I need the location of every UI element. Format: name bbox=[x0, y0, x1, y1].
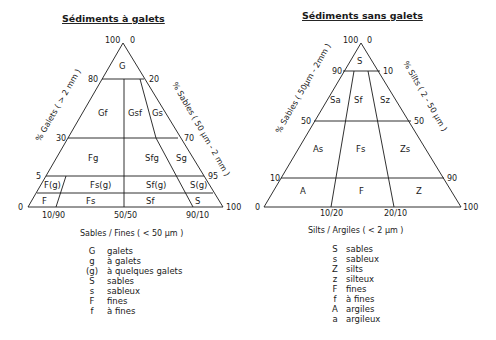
left-tick: 90 bbox=[332, 67, 342, 76]
zone-label: S(g) bbox=[190, 180, 207, 190]
legend-item: Aargiles bbox=[330, 304, 380, 314]
legend-item: fà fines bbox=[83, 306, 182, 316]
legend-item: aargileux bbox=[330, 314, 380, 324]
zone-label: Sf bbox=[354, 95, 363, 105]
zone-label: F(g) bbox=[44, 180, 61, 190]
bottom-tick: 90/10 bbox=[186, 211, 209, 220]
right-tick: 0 bbox=[367, 36, 372, 45]
zone-label: Gsf bbox=[128, 108, 143, 118]
zone-label: F bbox=[359, 186, 364, 196]
zone-label: S bbox=[195, 196, 200, 206]
zone-label: Sf(g) bbox=[146, 180, 166, 190]
right-tick: 100 bbox=[226, 203, 241, 212]
left-legend: Ggalets gà galets (g)à quelques galets S… bbox=[83, 246, 182, 316]
bottom-tick: 10/20 bbox=[320, 209, 343, 218]
zone-label: Sg bbox=[176, 153, 187, 163]
left-tick: 0 bbox=[18, 203, 23, 212]
legend-item: Ggalets bbox=[83, 246, 182, 256]
right-legend: Ssables ssableux Zsilts zsilteux Ffines … bbox=[330, 244, 380, 324]
left-left-axis-label: % Galets ( > 2 mm ) bbox=[34, 67, 83, 143]
zone-label: Gs bbox=[152, 108, 164, 118]
zone-label: Sfg bbox=[145, 153, 159, 163]
bottom-tick: 10/90 bbox=[42, 211, 65, 220]
left-bottom-axis-label: Sables / Fines ( < 50 µm ) bbox=[80, 229, 183, 238]
legend-item: Zsilts bbox=[330, 264, 380, 274]
right-triangle-outline bbox=[264, 43, 461, 207]
right-tick: 20 bbox=[149, 75, 159, 84]
zone-label: S bbox=[357, 56, 362, 66]
zone-label: Z bbox=[416, 186, 422, 196]
left-tick: 100 bbox=[343, 36, 358, 45]
zone-label: Sa bbox=[330, 95, 341, 105]
zone-label: F bbox=[42, 196, 47, 206]
bottom-tick: 50/50 bbox=[114, 211, 137, 220]
legend-item: zsilteux bbox=[330, 274, 380, 284]
legend-item: Ssables bbox=[83, 276, 182, 286]
zone-label: Zs bbox=[400, 144, 411, 154]
zone-label: Sz bbox=[380, 95, 390, 105]
left-tick: 5 bbox=[36, 172, 41, 181]
zone-label: Fs bbox=[356, 144, 366, 154]
zone-label: Fg bbox=[88, 153, 98, 163]
right-tick: 0 bbox=[130, 36, 135, 45]
legend-item: gà galets bbox=[83, 256, 182, 266]
right-tick: 90 bbox=[447, 174, 457, 183]
legend-item: Ssables bbox=[330, 244, 380, 254]
right-right-axis-label: % Silts ( 2 - 50 µm ) bbox=[401, 60, 449, 133]
legend-item: fà fines bbox=[330, 294, 380, 304]
left-tick: 10 bbox=[270, 174, 280, 183]
bottom-tick: 20/10 bbox=[384, 209, 407, 218]
right-title: Sédiments sans galets bbox=[302, 10, 423, 21]
zone-label: Gf bbox=[98, 108, 109, 118]
zone-label: A bbox=[300, 186, 306, 196]
legend-item: ssableux bbox=[330, 254, 380, 264]
legend-item: (g)à quelques galets bbox=[83, 266, 182, 276]
right-bottom-axis-label: Silts / Argiles ( < 2 µm ) bbox=[308, 226, 403, 235]
zone-label: Fs(g) bbox=[90, 180, 111, 190]
legend-item: Ffines bbox=[330, 284, 380, 294]
right-tick: 95 bbox=[208, 172, 218, 181]
legend-item: ssableux bbox=[83, 286, 182, 296]
zone-label: Fs bbox=[86, 196, 96, 206]
left-right-axis-label: % Sables ( 50 µm - 2 mm ) bbox=[170, 81, 231, 178]
zone-label: G bbox=[119, 61, 126, 71]
right-tick: 70 bbox=[184, 134, 194, 143]
left-tick: 80 bbox=[88, 75, 98, 84]
ternary-diagrams: Sédiments à galets 100 0 80 20 30 70 5 9… bbox=[0, 0, 496, 340]
zone-label: As bbox=[313, 144, 324, 154]
right-tick: 50 bbox=[414, 117, 424, 126]
left-tick: 30 bbox=[56, 134, 66, 143]
right-tick: 100 bbox=[463, 203, 478, 212]
right-tick: 10 bbox=[383, 67, 393, 76]
legend-item: Ffines bbox=[83, 296, 182, 306]
zone-label: Sf bbox=[146, 196, 155, 206]
left-tick: 0 bbox=[255, 203, 260, 212]
left-tick: 50 bbox=[301, 117, 311, 126]
left-tick: 100 bbox=[105, 36, 120, 45]
left-title: Sédiments à galets bbox=[62, 13, 165, 24]
